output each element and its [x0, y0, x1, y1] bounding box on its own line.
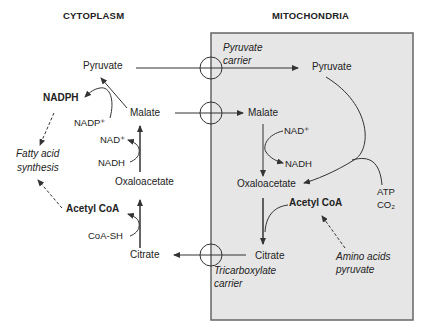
cyto-citrate-label: Citrate — [130, 249, 159, 261]
atp-label: ATP — [377, 186, 395, 198]
fatty-acid-label-line2: synthesis — [17, 162, 59, 174]
co2-label: CO₂ — [377, 199, 395, 211]
pyruvate-carrier-label-line1: Pyruvate — [223, 42, 262, 54]
pyruvate-carrier-label-line2: carrier — [223, 55, 251, 67]
acetyl-coa-to-fatty-acid-arrow — [38, 180, 62, 208]
cyto-nadp-label: NADP⁺ — [74, 117, 105, 129]
mito-nad-label: NAD⁺ — [284, 125, 309, 137]
cyto-coa-sh-label: CoA-SH — [88, 230, 123, 242]
mito-acetyl-coa-label: Acetyl CoA — [289, 197, 342, 209]
cyto-oxaloacetate-label: Oxaloacetate — [115, 176, 174, 188]
mito-pyruvate-label: Pyruvate — [312, 61, 351, 73]
mito-citrate-label: Citrate — [255, 250, 284, 262]
mito-malate-label: Malate — [248, 107, 278, 119]
tricarboxylate-carrier-label-line1: Tricarboxylate — [214, 265, 276, 277]
amino-acids-label-line2: pyruvate — [336, 264, 374, 276]
mito-oxaloacetate-label: Oxaloacetate — [237, 178, 296, 190]
cyto-nadph-label: NADPH — [43, 92, 79, 104]
cyto-acetyl-coa-label: Acetyl CoA — [66, 203, 119, 215]
cyto-nadh-label: NADH — [98, 157, 125, 169]
malate-to-pyruvate-arrow — [101, 78, 127, 108]
cyto-malate-label: Malate — [130, 107, 160, 119]
cytoplasm-header: CYTOPLASM — [63, 10, 124, 21]
tricarboxylate-carrier-label-line2: carrier — [214, 278, 242, 290]
mito-nadh-label: NADH — [285, 158, 312, 170]
nadph-to-fatty-acid-arrow — [40, 113, 54, 145]
nadp-to-nadph-arrow — [85, 88, 112, 118]
nadh-to-nad-arrow — [128, 140, 139, 162]
pathway-diagram — [0, 0, 422, 332]
coa-sh-to-acetyl-coa-arrow — [128, 214, 139, 236]
cyto-pyruvate-label: Pyruvate — [83, 60, 122, 72]
cyto-nad-label: NAD⁺ — [100, 134, 125, 146]
amino-acids-label-line1: Amino acids — [336, 251, 390, 263]
fatty-acid-label-line1: Fatty acid — [16, 148, 59, 160]
mitochondria-header: MITOCHONDRIA — [272, 10, 349, 21]
